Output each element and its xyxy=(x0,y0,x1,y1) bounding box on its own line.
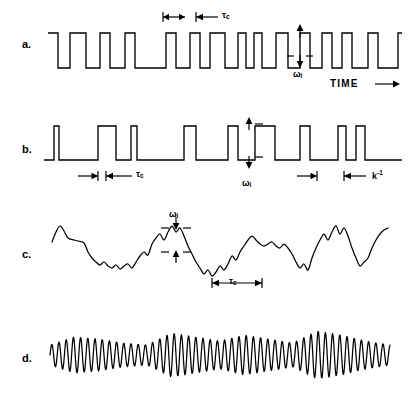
panel-c-plot xyxy=(0,195,411,305)
tau-c-label-b: τc xyxy=(136,169,144,179)
panel-d-plot xyxy=(0,300,411,403)
oscillation-trace-d xyxy=(50,332,390,378)
tau-c-tick-bracket-a xyxy=(163,12,185,22)
panel-a-plot xyxy=(0,0,411,110)
omega-i-measure-b xyxy=(246,117,263,169)
time-axis-arrow-a xyxy=(375,80,400,87)
omega-i-label-c: ωi xyxy=(169,209,178,219)
tau-c-tick-bracket-b xyxy=(78,171,98,181)
tau-c-label-c: τc xyxy=(229,276,237,286)
figure-canvas: a. τc ωi xyxy=(0,0,411,403)
tau-c-bracket-b xyxy=(106,171,132,181)
tau-c-bracket-a xyxy=(196,12,218,22)
omega-i-measure-c xyxy=(161,217,191,263)
k-inverse-bracket-b xyxy=(344,171,366,181)
time-axis-label-a: TIME xyxy=(330,78,359,89)
tau-c-bracket-c xyxy=(212,278,262,288)
omega-i-label-b: ωi xyxy=(242,178,251,188)
omega-i-label-a: ωi xyxy=(293,69,302,79)
square-wave-trace-a xyxy=(48,33,402,68)
k-inverse-label-b: k-1 xyxy=(372,169,383,181)
noise-trace-c xyxy=(52,226,388,276)
pulse-width-tick-b xyxy=(297,171,317,181)
pulse-train-trace-b xyxy=(44,126,402,160)
tau-c-label-a: τc xyxy=(222,10,230,20)
panel-b-plot xyxy=(0,105,411,205)
